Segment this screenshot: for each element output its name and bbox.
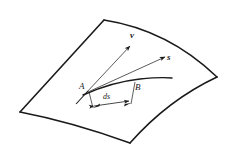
dimension-arrowhead-right [124,103,131,106]
extension-line-a [89,92,93,108]
direction-vector-arrow [88,57,165,92]
point-b-label: B [135,83,141,92]
direction-vector-label: s [167,53,171,62]
figure-canvas: v s A B ds [0,0,229,156]
surface-edge-bottom-right [130,77,217,143]
surface-diagram-svg [0,0,229,156]
tangent-tail-segment [76,91,88,104]
surface-edge-top-right [104,20,217,77]
trajectory-curve [83,78,172,95]
velocity-vector-label: v [130,31,134,40]
surface-edge-bottom-left [20,112,130,143]
arc-length-label: ds [103,93,110,101]
point-a-label: A [79,82,85,91]
surface-edge-top-left [20,20,104,112]
surface-patch-outline [20,20,217,143]
